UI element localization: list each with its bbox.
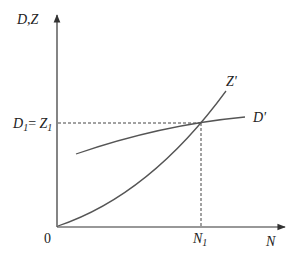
equilibrium-y-label: D1= Z1 xyxy=(12,116,52,133)
z-prime-label: Z' xyxy=(226,74,238,89)
x-axis-label: N xyxy=(265,234,276,249)
diagram-canvas: D,Z N 0 D1= Z1 N1 Z' D' xyxy=(0,0,303,261)
origin-label: 0 xyxy=(44,231,51,246)
y-axis-label: D,Z xyxy=(16,12,39,27)
equilibrium-x-label: N1 xyxy=(192,231,207,248)
d-prime-label: D' xyxy=(252,110,267,125)
